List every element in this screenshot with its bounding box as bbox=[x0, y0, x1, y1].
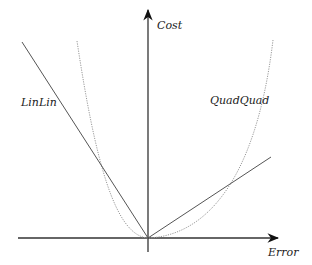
quadquad-label: QuadQuad bbox=[210, 94, 269, 107]
linlin-label: LinLin bbox=[20, 96, 57, 109]
y-axis-label: Cost bbox=[157, 19, 183, 32]
loss-function-diagram: Cost Error LinLin QuadQuad bbox=[0, 0, 312, 265]
quadquad-curve bbox=[77, 40, 273, 238]
x-axis-label: Error bbox=[267, 246, 299, 259]
linlin-line bbox=[22, 42, 271, 238]
